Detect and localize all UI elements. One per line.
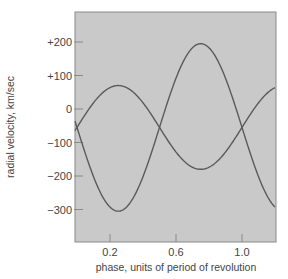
x-tick-label: 0.2 [102,246,117,258]
y-tick-label: −200 [47,170,72,182]
x-tick-label: 0.6 [168,246,183,258]
y-tick-label: −100 [47,137,72,149]
y-tick-label: 0 [66,103,72,115]
radial-velocity-chart: +200+1000−100−200−300 0.20.61.0 phase, u… [0,0,288,279]
y-tick-label: −300 [47,204,72,216]
plot-area [75,12,276,242]
x-axis-label: phase, units of period of revolution [96,261,257,273]
y-axis-label: radial velocity, km/sec [4,76,16,178]
x-tick-label: 1.0 [234,246,249,258]
y-tick-label: +100 [47,70,72,82]
y-tick-label: +200 [47,36,72,48]
